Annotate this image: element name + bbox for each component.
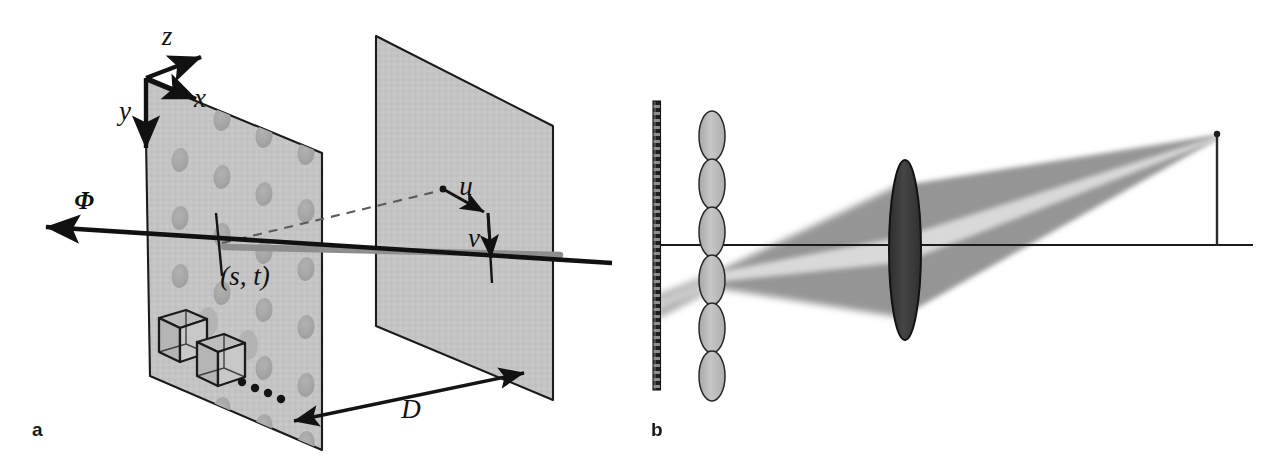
uv-plane [376,36,553,400]
distance-d-label: D [400,394,421,424]
panel-a-caption-label: a [32,419,43,440]
panel-a: z x y Φ (s, t) u v D a [32,21,612,456]
main-lens [889,160,921,340]
st-point-label: (s, t) [220,261,270,291]
axis-label-y: y [116,96,131,126]
cube-2 [197,334,245,386]
panel-b: b [651,101,1253,440]
phi-label: Φ [74,187,94,214]
axis-label-z: z [161,21,173,51]
axis-z-line [146,57,201,78]
panel-b-caption-label: b [651,419,663,440]
axis-label-x: x [193,83,206,113]
object-marker [1214,131,1220,246]
u-label: u [459,171,473,201]
v-label: v [468,223,480,253]
figure-canvas: z x y Φ (s, t) u v D a [0,0,1263,475]
figure-root: z x y Φ (s, t) u v D a [0,0,1263,475]
microlens-array [699,111,725,401]
photosensor-array [653,101,661,390]
